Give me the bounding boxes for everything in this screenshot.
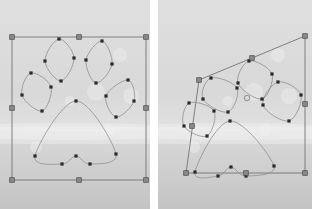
anchor-point-toe-inner-left-2[interactable] <box>59 79 62 82</box>
bokeh-highlight-0 <box>87 83 105 101</box>
transform-handle-bottom-center[interactable] <box>77 178 82 183</box>
transform-handle-middle-right[interactable] <box>303 102 308 107</box>
transform-handle-top-left[interactable] <box>10 35 15 40</box>
anchor-point-paw-pad-5[interactable] <box>114 152 117 155</box>
panel-after-transform[interactable] <box>158 0 312 209</box>
transform-handle-top-right[interactable] <box>303 34 308 39</box>
anchor-point-toe-inner-right-2[interactable] <box>94 81 97 84</box>
anchor-point-paw-pad-2[interactable] <box>60 162 63 165</box>
anchor-point-toe-inner-right-3[interactable] <box>110 62 113 65</box>
vector-canvas-after[interactable] <box>158 0 312 209</box>
anchor-point-paw-pad-1[interactable] <box>33 154 36 157</box>
anchor-point-toe-inner-left-1[interactable] <box>201 97 204 100</box>
vector-canvas-before[interactable] <box>0 0 150 209</box>
anchor-point-toe-inner-left-3[interactable] <box>235 86 238 89</box>
anchor-point-toe-outer-left-0[interactable] <box>187 101 190 104</box>
bokeh-highlight-3 <box>123 88 139 104</box>
anchor-point-toe-inner-left-2[interactable] <box>226 110 229 113</box>
anchor-point-paw-pad-4[interactable] <box>88 162 91 165</box>
anchor-point-toe-inner-right-1[interactable] <box>236 81 239 84</box>
anchor-point-paw-pad-3[interactable] <box>229 165 232 168</box>
anchor-point-toe-outer-left-2[interactable] <box>40 109 43 112</box>
snow-ridge-highlight-2 <box>0 123 150 131</box>
bokeh-highlight-5 <box>102 124 114 136</box>
comparison-stage <box>0 0 312 209</box>
anchor-point-toe-inner-right-0[interactable] <box>100 39 103 42</box>
anchor-point-toe-outer-right-2[interactable] <box>287 119 290 122</box>
anchor-point-toe-inner-right-1[interactable] <box>84 58 87 61</box>
transform-handle-top-left[interactable] <box>197 78 202 83</box>
transform-handle-middle-left[interactable] <box>190 124 195 129</box>
anchor-point-toe-outer-left-2[interactable] <box>205 134 208 137</box>
anchor-point-paw-pad-1[interactable] <box>193 170 196 173</box>
anchor-point-toe-inner-left-1[interactable] <box>43 59 46 62</box>
anchor-point-toe-inner-right-2[interactable] <box>260 97 263 100</box>
bokeh-highlight-3 <box>281 88 297 104</box>
anchor-point-paw-pad-3[interactable] <box>74 154 77 157</box>
anchor-point-toe-inner-left-0[interactable] <box>57 37 60 40</box>
anchor-point-toe-outer-left-1[interactable] <box>20 93 23 96</box>
background-band-ground-band <box>158 144 312 209</box>
anchor-point-toe-outer-right-2[interactable] <box>114 115 117 118</box>
transform-handle-top-right[interactable] <box>144 35 149 40</box>
transform-handle-middle-left[interactable] <box>10 106 15 111</box>
bokeh-highlight-0 <box>245 83 263 101</box>
bokeh-highlight-1 <box>271 48 285 62</box>
photo-background <box>0 0 150 209</box>
transform-handle-bottom-left[interactable] <box>184 171 189 176</box>
bokeh-highlight-4 <box>223 96 233 106</box>
bokeh-highlight-1 <box>113 48 127 62</box>
transform-handle-top-center[interactable] <box>250 56 255 61</box>
anchor-point-toe-outer-right-1[interactable] <box>104 94 107 97</box>
anchor-point-toe-outer-left-3[interactable] <box>49 85 52 88</box>
panel-before-transform[interactable] <box>0 0 150 209</box>
anchor-point-toe-outer-left-1[interactable] <box>182 124 185 127</box>
anchor-point-toe-outer-right-0[interactable] <box>276 80 279 83</box>
anchor-point-toe-inner-right-3[interactable] <box>270 72 273 75</box>
panel-divider-gap <box>150 0 158 209</box>
transform-handle-bottom-right[interactable] <box>303 171 308 176</box>
transform-handle-bottom-right[interactable] <box>144 178 149 183</box>
transform-handle-top-center[interactable] <box>77 35 82 40</box>
anchor-point-toe-outer-right-3[interactable] <box>132 99 135 102</box>
anchor-point-toe-outer-left-3[interactable] <box>212 109 215 112</box>
anchor-point-toe-inner-left-3[interactable] <box>72 56 75 59</box>
anchor-point-paw-pad-0[interactable] <box>74 99 77 102</box>
anchor-point-paw-pad-2[interactable] <box>216 174 219 177</box>
bokeh-highlight-4 <box>65 96 75 106</box>
snow-ridge-highlight-2 <box>158 123 312 131</box>
bokeh-highlight-5 <box>260 124 272 136</box>
anchor-point-paw-pad-5[interactable] <box>272 164 275 167</box>
transform-handle-bottom-left[interactable] <box>10 178 15 183</box>
anchor-point-toe-outer-right-0[interactable] <box>126 78 129 81</box>
background-band-ground-band <box>0 144 150 209</box>
anchor-point-toe-outer-right-3[interactable] <box>299 93 302 96</box>
anchor-point-paw-pad-0[interactable] <box>228 119 231 122</box>
anchor-point-toe-inner-left-0[interactable] <box>209 76 212 79</box>
anchor-point-toe-outer-right-1[interactable] <box>261 103 264 106</box>
anchor-point-toe-outer-left-0[interactable] <box>29 71 32 74</box>
transform-handle-middle-right[interactable] <box>144 106 149 111</box>
transform-handle-bottom-center[interactable] <box>244 171 249 176</box>
